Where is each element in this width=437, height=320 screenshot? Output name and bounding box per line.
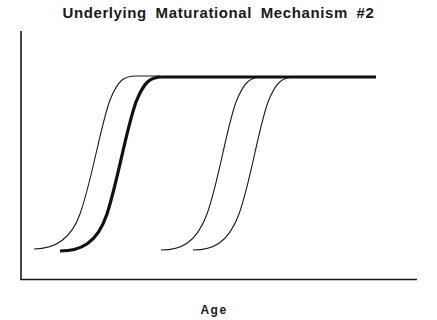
curve-2-bold bbox=[60, 77, 376, 251]
curve-1-thin bbox=[34, 76, 160, 249]
x-axis-label: Age bbox=[196, 303, 232, 317]
chart-plot-area bbox=[0, 0, 437, 320]
curve-4-thin bbox=[193, 77, 295, 250]
curve-3-thin bbox=[161, 77, 262, 250]
